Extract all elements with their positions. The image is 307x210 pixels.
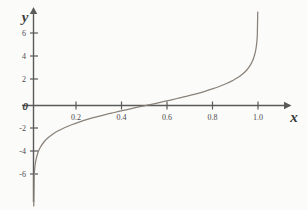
origin-label: 0 [23, 100, 29, 112]
logit-plot: 0.2 0.4 0.6 0.8 1.0 6 4 2 -2 -4 -6 0 y [0, 0, 307, 210]
x-tick-label-3: 0.8 [208, 113, 218, 122]
x-tick-label-2: 0.6 [162, 113, 172, 122]
y-tick-label-2: 2 [22, 75, 26, 84]
y-tick-label-6: 6 [22, 29, 26, 38]
x-axis-tick-labels: 0.2 0.4 0.6 0.8 1.0 [71, 113, 263, 122]
y-axis-label: y [20, 9, 29, 25]
chart-figure: 0.2 0.4 0.6 0.8 1.0 6 4 2 -2 -4 -6 0 y [0, 0, 307, 210]
y-tick-label-minus-2: -2 [19, 124, 26, 133]
x-tick-label-0: 0.2 [71, 113, 81, 122]
y-tick-label-4: 4 [22, 52, 26, 61]
y-axis [30, 7, 37, 202]
y-axis-arrowhead [30, 7, 37, 14]
x-tick-label-1: 0.4 [117, 113, 127, 122]
x-axis-label: x [289, 109, 298, 125]
y-tick-label-minus-4: -4 [19, 147, 26, 156]
y-tick-label-minus-6: -6 [19, 170, 26, 179]
data-curve-logit [34, 12, 258, 206]
x-tick-label-4: 1.0 [253, 113, 263, 122]
